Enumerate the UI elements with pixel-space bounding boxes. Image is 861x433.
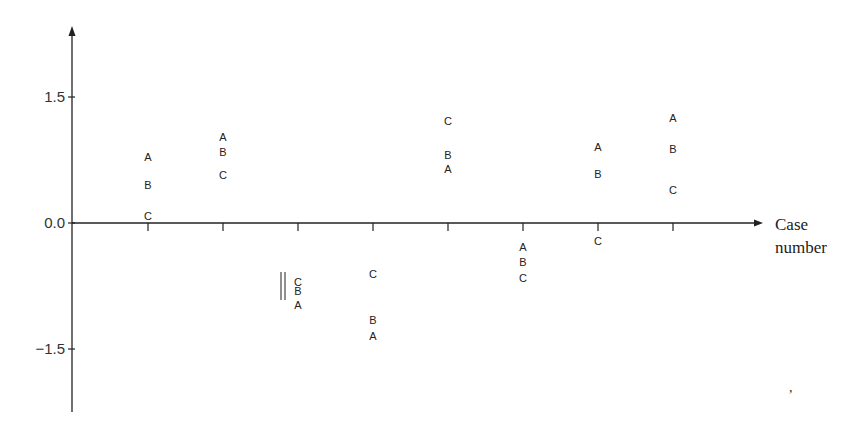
point-c: C — [144, 210, 152, 222]
point-a: A — [444, 163, 452, 175]
data-points: AAAAAAAABBBBBBBBCCCCCCCC — [144, 112, 677, 342]
x-axis-title-line1: Case — [775, 215, 808, 234]
point-b: B — [594, 168, 601, 180]
point-c: C — [369, 268, 377, 280]
y-ticks: 1.50.0−1.5 — [35, 88, 75, 357]
axes — [69, 26, 764, 412]
y-tick-label: 1.5 — [44, 88, 65, 105]
point-b: B — [219, 146, 226, 158]
point-b: B — [669, 143, 676, 155]
point-b: B — [369, 314, 376, 326]
point-c: C — [669, 184, 677, 196]
x-axis-arrow-icon — [754, 220, 763, 227]
y-axis-arrow-icon — [69, 26, 76, 36]
point-c: C — [519, 272, 527, 284]
y-tick-label: −1.5 — [35, 340, 65, 357]
point-a: A — [594, 141, 602, 153]
point-a: A — [369, 330, 377, 342]
scatter-chart: 1.50.0−1.5 AAAAAAAABBBBBBBBCCCCCCCC Case… — [0, 0, 861, 433]
point-c: C — [594, 235, 602, 247]
x-ticks — [148, 223, 673, 231]
point-c: C — [219, 169, 227, 181]
point-a: A — [669, 112, 677, 124]
annotations — [281, 272, 285, 300]
point-a: A — [294, 299, 302, 311]
point-b: B — [444, 149, 451, 161]
point-b: B — [519, 256, 526, 268]
point-c: C — [444, 115, 452, 127]
y-tick-label: 0.0 — [44, 214, 65, 231]
point-b: B — [144, 179, 151, 191]
point-a: A — [519, 241, 527, 253]
x-axis-title-line2: number — [775, 238, 827, 257]
point-c: C — [294, 276, 302, 288]
stray-mark: , — [789, 380, 793, 395]
point-a: A — [219, 131, 227, 143]
point-a: A — [144, 151, 152, 163]
